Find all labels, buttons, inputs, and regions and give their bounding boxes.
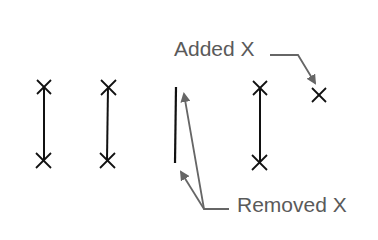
removed-line (175, 87, 176, 163)
added-arrow-icon (270, 55, 315, 83)
connected-pair-1 (36, 80, 51, 168)
connected-pair-2 (100, 80, 116, 168)
added-x-marker-icon (312, 88, 326, 102)
connected-pair-3 (252, 81, 267, 170)
added-x-label: Added X (174, 38, 255, 59)
removed-arrows-icon (181, 94, 229, 209)
removed-x-label: Removed X (237, 194, 347, 215)
